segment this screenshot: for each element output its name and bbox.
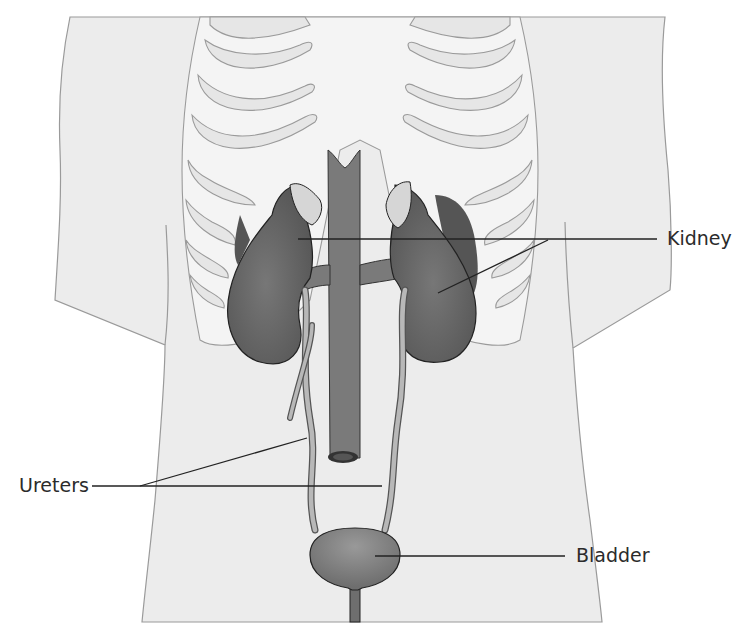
- urinary-system-diagram: [0, 0, 733, 635]
- kidney-label: Kidney: [667, 229, 732, 248]
- bladder-label: Bladder: [576, 546, 650, 565]
- ureters-label: Ureters: [19, 476, 89, 495]
